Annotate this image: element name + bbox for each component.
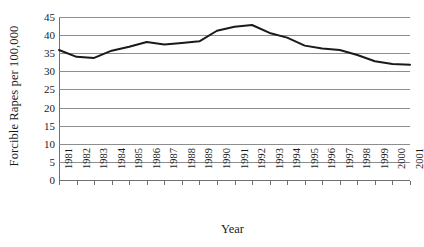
x-tick-mark-1991 <box>235 181 236 185</box>
x-tick-label-1997: 1997 <box>344 148 355 188</box>
x-tick-mark-2001 <box>410 181 411 185</box>
x-tick-mark-1988 <box>182 181 183 185</box>
x-tick-mark-1981 <box>59 181 60 185</box>
x-tick-label-1989: 1989 <box>203 148 214 188</box>
y-tick-label-15: 15 <box>29 121 55 132</box>
y-tick-label-0: 0 <box>29 175 55 186</box>
y-tick-label-45: 45 <box>29 12 55 23</box>
plot-area <box>59 17 410 180</box>
y-axis-tick-labels: 051015202530354045 <box>25 17 55 180</box>
x-tick-mark-1982 <box>77 181 78 185</box>
y-tick-label-35: 35 <box>29 48 55 59</box>
x-tick-label-1993: 1993 <box>274 148 285 188</box>
x-tick-label-1983: 1983 <box>98 148 109 188</box>
x-tick-mark-1997 <box>340 181 341 185</box>
y-tick-label-10: 10 <box>29 139 55 150</box>
x-tick-label-1982: 1982 <box>81 148 92 188</box>
x-tick-mark-1987 <box>164 181 165 185</box>
x-tick-label-1994: 1994 <box>291 148 302 188</box>
x-tick-label-1991: 1991 <box>239 148 250 188</box>
y-axis-title: Forcible Rapes per 100,000 <box>3 0 25 196</box>
x-tick-mark-1983 <box>94 181 95 185</box>
y-tick-label-30: 30 <box>29 66 55 77</box>
x-tick-mark-1992 <box>252 181 253 185</box>
x-tick-label-2001: 2001 <box>414 148 424 188</box>
y-tick-label-5: 5 <box>29 157 55 168</box>
x-tick-mark-2000 <box>392 181 393 185</box>
x-tick-mark-1993 <box>270 181 271 185</box>
x-tick-mark-1989 <box>199 181 200 185</box>
x-tick-label-1984: 1984 <box>116 148 127 188</box>
y-tick-label-20: 20 <box>29 103 55 114</box>
x-tick-label-1999: 1999 <box>379 148 390 188</box>
data-series-line <box>59 17 410 180</box>
x-tick-mark-1984 <box>112 181 113 185</box>
x-tick-label-1990: 1990 <box>221 148 232 188</box>
x-tick-label-2000: 2000 <box>396 148 407 188</box>
x-tick-label-1986: 1986 <box>151 148 162 188</box>
x-tick-mark-1994 <box>287 181 288 185</box>
x-tick-mark-1999 <box>375 181 376 185</box>
x-tick-mark-1995 <box>305 181 306 185</box>
line-chart: Forcible Rapes per 100,000 0510152025303… <box>0 0 424 247</box>
x-tick-label-1981: 1981 <box>63 148 74 188</box>
x-tick-mark-1998 <box>357 181 358 185</box>
x-axis-title: Year <box>55 222 410 237</box>
x-tick-label-1996: 1996 <box>326 148 337 188</box>
y-tick-label-40: 40 <box>29 30 55 41</box>
x-tick-label-1988: 1988 <box>186 148 197 188</box>
x-tick-label-1998: 1998 <box>361 148 372 188</box>
x-tick-label-1992: 1992 <box>256 148 267 188</box>
x-tick-mark-1986 <box>147 181 148 185</box>
x-tick-mark-1996 <box>322 181 323 185</box>
y-tick-label-25: 25 <box>29 84 55 95</box>
series-polyline <box>59 25 410 65</box>
x-tick-label-1985: 1985 <box>133 148 144 188</box>
x-tick-label-1995: 1995 <box>309 148 320 188</box>
x-tick-mark-1990 <box>217 181 218 185</box>
x-tick-label-1987: 1987 <box>168 148 179 188</box>
x-tick-mark-1985 <box>129 181 130 185</box>
